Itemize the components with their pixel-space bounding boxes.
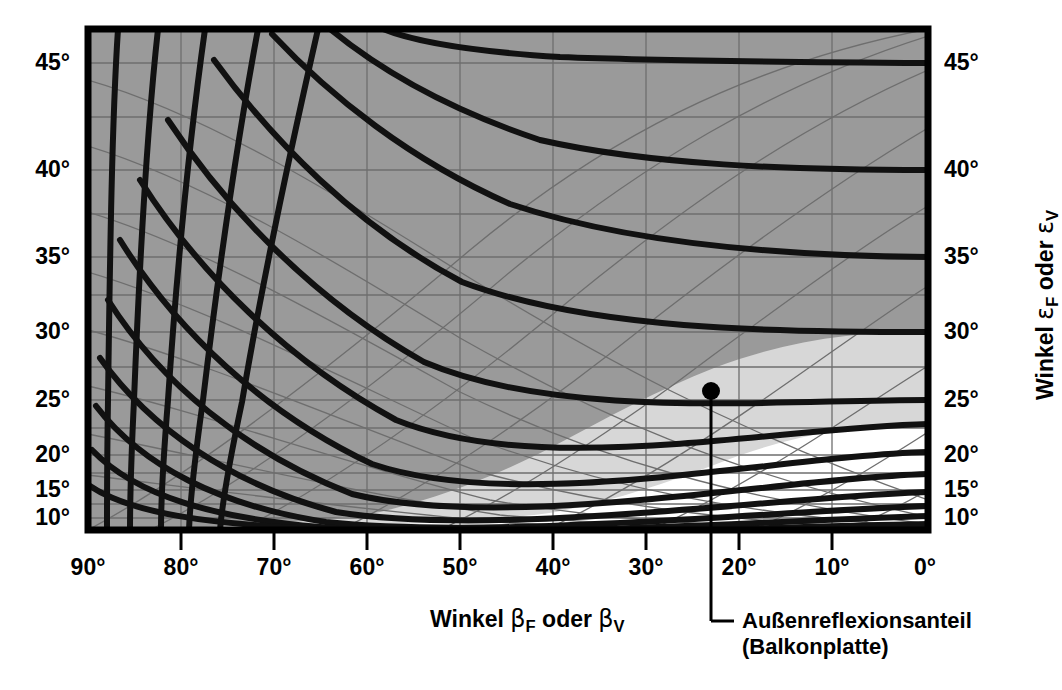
y-left-tick-15: 15° — [0, 478, 70, 501]
y-right-tick-25: 25° — [944, 388, 979, 411]
x-tick-50: 50° — [420, 556, 500, 579]
x-tick-30: 30° — [606, 556, 686, 579]
chart-plot-area — [0, 0, 1062, 690]
annotation-label-line2: (Balkonplatte) — [742, 634, 889, 660]
y-left-tick-10: 10° — [0, 506, 70, 529]
y-right-tick-40: 40° — [944, 158, 979, 181]
y-left-tick-30: 30° — [0, 320, 70, 343]
y-right-tick-30: 30° — [944, 320, 979, 343]
x-axis-title: Winkel βF oder βV — [430, 608, 625, 635]
y-right-tick-20: 20° — [944, 443, 979, 466]
y-axis-symbol-epsilon-f: ε — [1031, 307, 1059, 320]
x-tick-20: 20° — [699, 556, 779, 579]
annotation-marker-dot — [702, 382, 720, 400]
x-axis-symbol-beta-f: β — [510, 605, 525, 633]
y-axis-title-mid: oder — [1032, 234, 1058, 297]
y-left-tick-40: 40° — [0, 158, 70, 181]
x-tick-0: 0° — [885, 556, 965, 579]
y-axis-title-prefix: Winkel — [1032, 320, 1058, 400]
y-left-tick-35: 35° — [0, 245, 70, 268]
x-axis-ticks — [181, 533, 832, 550]
y-axis-title: Winkel εF oder εV — [1034, 210, 1061, 400]
x-tick-70: 70° — [234, 556, 314, 579]
x-axis-subscript-f: F — [526, 617, 536, 636]
annotation-label-line1: Außenreflexionsanteil — [742, 608, 972, 634]
y-axis-subscript-v: V — [1043, 210, 1062, 221]
y-right-tick-15: 15° — [944, 478, 979, 501]
y-left-tick-20: 20° — [0, 443, 70, 466]
y-right-tick-45: 45° — [944, 51, 979, 74]
x-axis-title-mid: oder — [536, 606, 599, 632]
x-axis-symbol-beta-v: β — [598, 605, 613, 633]
nomogram-figure: 45° 40° 35° 30° 25° 20° 15° 10° 45° 40° … — [0, 0, 1062, 690]
y-left-tick-25: 25° — [0, 388, 70, 411]
y-right-tick-35: 35° — [944, 245, 979, 268]
x-tick-80: 80° — [141, 556, 221, 579]
y-left-tick-45: 45° — [0, 51, 70, 74]
y-axis-subscript-f: F — [1043, 297, 1062, 307]
x-axis-title-prefix: Winkel — [430, 606, 510, 632]
x-tick-60: 60° — [327, 556, 407, 579]
x-tick-10: 10° — [792, 556, 872, 579]
y-right-tick-10: 10° — [944, 506, 979, 529]
x-tick-40: 40° — [513, 556, 593, 579]
x-axis-subscript-v: V — [614, 617, 625, 636]
x-tick-90: 90° — [48, 556, 128, 579]
y-axis-symbol-epsilon-v: ε — [1031, 221, 1059, 234]
